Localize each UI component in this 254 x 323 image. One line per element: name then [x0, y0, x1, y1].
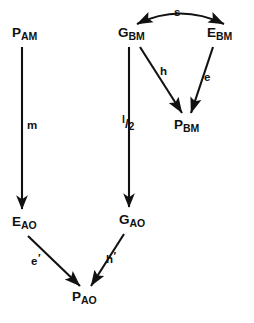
edge-label-h: h: [160, 66, 167, 78]
node-e-bm-base: E: [207, 25, 216, 40]
node-g-ao-base: G: [119, 212, 130, 227]
edge-label-l-half: l/2: [122, 114, 134, 131]
node-g-bm-base: G: [118, 25, 129, 40]
node-p-bm: PBM: [174, 118, 199, 134]
node-p-am: PAM: [12, 26, 37, 42]
node-p-ao: PAO: [72, 290, 97, 306]
node-p-am-subscript: AM: [21, 30, 37, 42]
node-g-ao: GAO: [119, 213, 145, 229]
edge-label-l-half-denominator: 2: [129, 120, 135, 132]
node-g-ao-subscript: AO: [130, 217, 146, 229]
node-p-bm-subscript: BM: [183, 122, 199, 134]
edge-label-e: e: [204, 72, 210, 84]
edge-label-e-prime-mark: ′: [37, 252, 40, 264]
node-g-bm: GBM: [118, 26, 145, 42]
node-p-bm-base: P: [174, 117, 183, 132]
node-p-ao-base: P: [72, 289, 81, 304]
edge-label-s: s: [174, 7, 180, 19]
edge-label-h-prime: h′: [106, 251, 116, 265]
edge-s-arrow: [137, 14, 224, 25]
diagram-edges-layer: [0, 0, 254, 323]
edge-label-h-prime-mark: ′: [113, 250, 116, 262]
node-p-ao-subscript: AO: [81, 294, 97, 306]
node-g-bm-subscript: BM: [129, 30, 145, 42]
edge-label-h-prime-base: h: [106, 253, 113, 265]
node-p-am-base: P: [12, 25, 21, 40]
node-e-ao-base: E: [12, 214, 21, 229]
node-e-bm: EBM: [207, 26, 232, 42]
node-e-ao: EAO: [12, 215, 37, 231]
edge-label-m: m: [27, 120, 37, 132]
edge-h-arrow: [140, 47, 182, 113]
node-e-ao-subscript: AO: [21, 219, 37, 231]
diagram-canvas: PAM GBM EBM PBM EAO GAO PAO s m l/2 h e …: [0, 0, 254, 323]
edge-label-e-prime: e′: [31, 253, 41, 267]
node-e-bm-subscript: BM: [216, 30, 232, 42]
